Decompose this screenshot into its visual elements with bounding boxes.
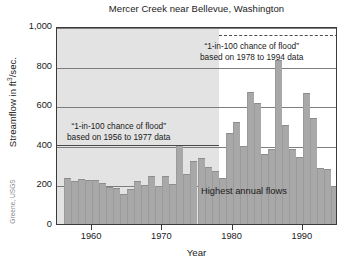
y-tick-600: 600 (0, 100, 52, 110)
bar-1960 (92, 180, 99, 224)
gridline-800 (57, 68, 336, 69)
bar-1973 (183, 174, 190, 224)
bar-1967 (141, 185, 148, 224)
flood-line-1978-1994 (219, 35, 337, 36)
bar-1994 (331, 186, 337, 224)
bar-1965 (127, 189, 134, 224)
bar-1959 (85, 180, 92, 224)
annot-old-record-line2: based on 1956 to 1977 data (67, 132, 170, 143)
bar-1981 (240, 146, 247, 224)
bar-1987 (282, 125, 289, 224)
bar-1958 (78, 179, 85, 224)
bar-1966 (134, 181, 141, 224)
bar-1983 (254, 103, 261, 224)
x-tick-mark-1980 (232, 225, 233, 230)
y-tick-200: 200 (0, 179, 52, 189)
y-tick-400: 400 (0, 140, 52, 150)
plot-area: “1-in-100 chance of flood”based on 1956 … (56, 27, 337, 225)
x-tick-mark-1990 (302, 225, 303, 230)
annot-old-record: “1-in-100 chance of flood”based on 1956 … (67, 121, 170, 142)
chart-figure: Mercer Creek near Bellevue, Washington “… (0, 0, 353, 274)
gridline-1000 (57, 28, 336, 29)
x-tick-1980: 1980 (212, 231, 252, 241)
bar-1964 (120, 194, 127, 224)
bar-1990 (303, 93, 310, 224)
bar-1986 (275, 60, 282, 224)
x-tick-1960: 1960 (71, 231, 111, 241)
bar-1957 (71, 181, 78, 224)
bar-1978 (219, 178, 226, 224)
x-tick-1970: 1970 (141, 231, 181, 241)
bar-1963 (113, 188, 120, 224)
bar-1961 (99, 183, 106, 224)
bar-1970 (162, 176, 169, 224)
y-tick-0: 0 (0, 219, 52, 229)
annot-new-record: “1-in-100 chance of flood”based on 1978 … (200, 41, 303, 62)
bar-1962 (106, 187, 113, 224)
bar-1969 (155, 186, 162, 224)
annot-new-record-line1: “1-in-100 chance of flood” (200, 41, 303, 52)
annot-old-record-line1: “1-in-100 chance of flood” (67, 121, 170, 132)
bar-1979 (226, 133, 233, 224)
x-tick-mark-1960 (91, 225, 92, 230)
y-tick-800: 800 (0, 61, 52, 71)
bar-1993 (324, 169, 331, 224)
series-inline-label: Highest annual flows (169, 186, 319, 196)
bar-1956 (64, 178, 71, 224)
gridline-400 (57, 147, 336, 148)
x-tick-1990: 1990 (282, 231, 322, 241)
bar-1968 (148, 176, 155, 224)
bar-1980 (233, 122, 240, 224)
y-tick-1000: 1,000 (0, 21, 52, 31)
annot-new-record-line2: based on 1978 to 1994 data (200, 52, 303, 63)
gridline-600 (57, 107, 336, 108)
chart-title: Mercer Creek near Bellevue, Washington (56, 3, 337, 14)
bar-1972 (176, 145, 183, 224)
x-tick-mark-1970 (161, 225, 162, 230)
x-axis-label: Year (56, 247, 337, 258)
flood-line-1956-1977 (57, 145, 219, 146)
bar-1982 (247, 92, 254, 224)
bar-1991 (310, 118, 317, 224)
bar-1977 (212, 171, 219, 224)
